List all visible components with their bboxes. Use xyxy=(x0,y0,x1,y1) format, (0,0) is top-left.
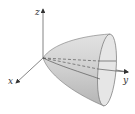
y-axis-front xyxy=(116,71,128,72)
z-axis-label: z xyxy=(34,7,40,17)
x-axis xyxy=(16,58,43,83)
paraboloid-diagram: z x y xyxy=(0,0,135,114)
y-axis-label: y xyxy=(122,75,129,85)
x-axis-label: x xyxy=(8,76,13,86)
